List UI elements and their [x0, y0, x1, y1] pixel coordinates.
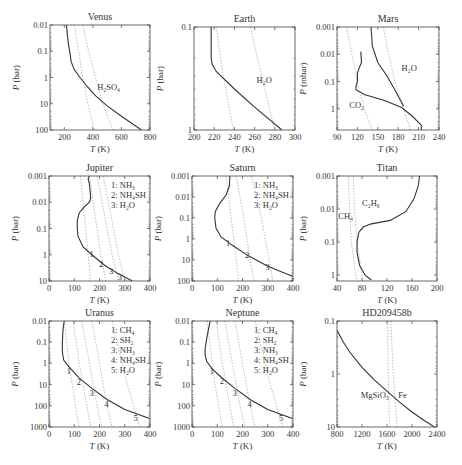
x-tick-label: 1600 — [379, 429, 396, 439]
y-tick-label: 0.01 — [320, 49, 335, 59]
panel-title: Uranus — [85, 307, 114, 318]
y-tick-label: 1 — [44, 73, 48, 83]
condensation-curve — [235, 321, 255, 427]
curve-label: CO₂ — [349, 100, 364, 110]
curve-label: 5 — [134, 413, 138, 423]
panel-title: HD209458b — [362, 307, 411, 318]
x-axis-label: T (K) — [377, 295, 397, 305]
y-axis-label: P (bar) — [10, 216, 20, 242]
temperature-profile — [66, 25, 141, 130]
panel-title: Titan — [377, 162, 398, 173]
x-tick-label: 200 — [431, 283, 444, 293]
curve-label: 3 — [232, 388, 236, 398]
y-tick-label: 1 — [331, 104, 335, 114]
panel-mars: Mars901201501802102400.0010.010.11T (K)P… — [298, 13, 445, 154]
panel-hd209458b: HD209458b80012001600200024000.1110T (K)P… — [298, 307, 446, 451]
condensation-curves — [348, 176, 419, 281]
condensation-curve — [353, 176, 364, 281]
x-tick-label: 120 — [351, 132, 364, 142]
legend-entry: 3: H₂O — [111, 200, 135, 210]
condensation-curves — [66, 25, 141, 130]
legend-entry: 1: NH₃ — [254, 180, 278, 190]
x-tick-label: 0 — [190, 283, 194, 293]
x-tick-label: 100 — [211, 429, 224, 439]
condensation-curve — [347, 27, 373, 130]
curve-label: CH₄ — [338, 211, 353, 221]
panel-uranus: Uranus01002003004000.010.11101001000T (K… — [10, 307, 156, 451]
x-tick-label: 300 — [261, 283, 274, 293]
y-tick-label: 0.001 — [171, 171, 190, 181]
condensation-curve — [388, 321, 390, 427]
panel-neptune: Neptune01002003004000.010.11101001000T (… — [153, 307, 299, 451]
y-axis-label: P (mbar) — [298, 62, 308, 95]
condensation-curve — [74, 25, 94, 130]
legend-entry: 5: H₂O — [254, 365, 278, 375]
x-axis-label: T (K) — [378, 144, 398, 154]
y-tick-label: 10 — [40, 99, 49, 109]
x-tick-label: 240 — [433, 132, 446, 142]
condensation-curve — [216, 321, 234, 427]
x-tick-label: 240 — [228, 132, 241, 142]
curve-label: 2 — [77, 377, 81, 387]
y-axis-label: P (bar) — [155, 66, 165, 92]
x-tick-label: 300 — [289, 132, 302, 142]
x-tick-label: 160 — [406, 283, 419, 293]
x-tick-label: 40 — [333, 283, 342, 293]
curve-label: 3 — [89, 388, 93, 398]
curve-label: 3 — [109, 266, 113, 276]
curve-label: MgSiO₃ — [361, 390, 389, 400]
condensation-curves — [62, 321, 149, 427]
temperature-profile — [337, 330, 435, 427]
x-axis-label: T (K) — [90, 441, 110, 451]
x-tick-label: 200 — [93, 429, 106, 439]
legend-entry: 3: NH₃ — [111, 345, 135, 355]
x-axis-label: T (K) — [377, 441, 397, 451]
x-tick-label: 2400 — [429, 429, 446, 439]
panel-venus: Venus2004006008000.010.1110100T (K)P (ba… — [11, 11, 156, 154]
condensation-curve — [236, 176, 254, 281]
x-tick-label: 260 — [248, 132, 261, 142]
temperature-profile — [357, 176, 420, 280]
x-tick-label: 280 — [268, 132, 281, 142]
curve-label: H₂O — [402, 63, 417, 73]
y-tick-label: 0.01 — [175, 316, 190, 326]
condensation-curve — [225, 321, 245, 427]
planet-pt-profile-grid: Venus2004006008000.010.1110100T (K)P (ba… — [0, 0, 462, 465]
x-tick-label: 220 — [208, 132, 221, 142]
y-tick-label: 0.001 — [316, 171, 335, 181]
x-axis-label: T (K) — [90, 144, 110, 154]
x-axis-label: T (K) — [233, 295, 253, 305]
curve-label: 1 — [67, 366, 71, 376]
x-tick-label: 400 — [86, 132, 99, 142]
panel-earth: Earth2002202402602803000.11T (K)P (bar)H… — [155, 13, 301, 154]
y-tick-label: 0.001 — [28, 171, 47, 181]
legend-entry: 3: H₂O — [254, 200, 278, 210]
y-tick-label: 0.1 — [179, 337, 190, 347]
y-tick-label: 0.1 — [36, 224, 47, 234]
panel-title: Venus — [88, 11, 113, 22]
curve-label: 4 — [248, 399, 253, 409]
legend-entry: 3: NH₃ — [254, 345, 278, 355]
y-axis-label: P (bar) — [298, 361, 308, 387]
condensation-curve — [89, 176, 105, 281]
curve-label: 1 — [226, 238, 230, 248]
y-tick-label: 10 — [39, 380, 48, 390]
legend-entry: 1: CH₄ — [111, 325, 135, 335]
curve-label: 2 — [99, 259, 103, 269]
y-axis-label: P (bar) — [10, 361, 20, 387]
x-axis-label: T (K) — [90, 295, 110, 305]
y-tick-label: 0.01 — [32, 197, 47, 207]
x-tick-label: 100 — [68, 429, 81, 439]
legend-entry: 5: H₂O — [111, 365, 135, 375]
y-tick-label: 1000 — [30, 422, 47, 432]
condensation-curves — [347, 27, 422, 130]
y-tick-label: 0.01 — [32, 316, 47, 326]
y-tick-label: 1 — [186, 358, 190, 368]
condensation-curve — [83, 25, 113, 130]
y-tick-label: 0.1 — [181, 22, 192, 32]
y-tick-label: 0.1 — [324, 237, 335, 247]
y-tick-label: 10 — [182, 255, 191, 265]
x-tick-label: 180 — [392, 132, 405, 142]
x-tick-label: 0 — [190, 429, 194, 439]
curve-label: 2 — [220, 376, 224, 386]
